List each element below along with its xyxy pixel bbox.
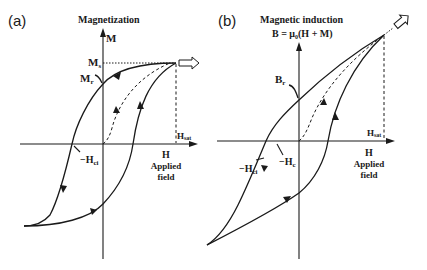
initial-curve-arrow-icon bbox=[113, 106, 120, 113]
magnetization-axis-title: Magnetization bbox=[78, 14, 140, 25]
x-axis-title-line1: Applied bbox=[354, 159, 385, 169]
coercivity-label: −Hci bbox=[80, 154, 99, 167]
remanence-pointer bbox=[289, 85, 298, 98]
x-axis-title-line1: Applied bbox=[151, 161, 182, 171]
initial-curve-arrow-icon bbox=[320, 98, 327, 105]
x-axis-title-line2: field bbox=[158, 172, 175, 182]
magnetization-symbol: M bbox=[106, 32, 117, 44]
descending-lower-arrow-icon bbox=[60, 185, 67, 193]
saturation-continuation-line bbox=[384, 28, 393, 35]
hysteresis-diagram: (a) Magnetization M Ms Hsat Mr − bbox=[0, 0, 427, 270]
ascending-upper-arrow-icon bbox=[332, 112, 339, 120]
induction-axis-title: Magnetic induction bbox=[260, 14, 343, 25]
x-axis-title-line2: field bbox=[361, 170, 378, 180]
panel-a-label: (a) bbox=[8, 12, 26, 29]
intrinsic-coercivity-pointer bbox=[256, 158, 264, 160]
remanence-pointer bbox=[95, 75, 102, 83]
coercivity-pointer bbox=[277, 144, 283, 155]
x-axis-arrowhead-icon bbox=[189, 141, 198, 147]
intrinsic-coercivity-label: −Hci bbox=[239, 163, 258, 176]
descending-arrow-icon bbox=[261, 165, 268, 172]
coercivity-label: −Hc bbox=[279, 156, 296, 169]
induction-formula: B = μ₀(H + M) bbox=[272, 28, 333, 40]
x-axis-symbol: H bbox=[162, 149, 170, 160]
x-axis-symbol: H bbox=[365, 147, 373, 158]
coercivity-pointer bbox=[74, 146, 80, 152]
x-axis-arrowhead-icon bbox=[386, 138, 395, 144]
saturation-direction-arrow-icon bbox=[179, 57, 199, 69]
hsat-label: Hsat bbox=[177, 131, 191, 141]
hsat-label: Hsat bbox=[367, 128, 381, 138]
saturation-label: Ms bbox=[88, 56, 101, 70]
remanence-label: Mr bbox=[80, 72, 94, 86]
panel-a: (a) Magnetization M Ms Hsat Mr − bbox=[8, 12, 199, 259]
saturation-direction-arrow-icon bbox=[392, 11, 412, 30]
remanence-label: Br bbox=[275, 73, 285, 87]
y-axis-arrowhead-icon bbox=[296, 42, 302, 51]
ascending-lower-arrow-icon bbox=[90, 208, 97, 215]
panel-b: (b) Magnetic induction B = μ₀(H + M) Hsa… bbox=[207, 11, 412, 259]
panel-b-label: (b) bbox=[218, 12, 236, 29]
